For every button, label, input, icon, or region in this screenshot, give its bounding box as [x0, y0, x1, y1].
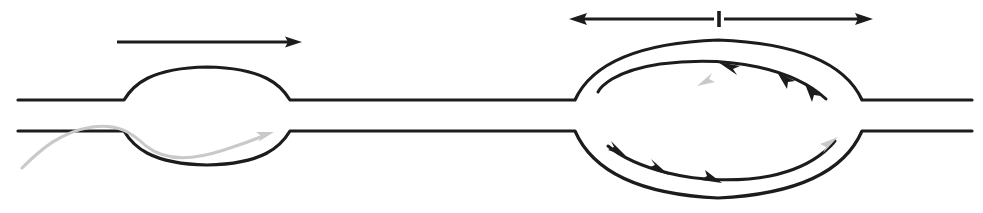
upper-recirculation-head-1 [697, 73, 715, 86]
lower-recirculation-path [608, 141, 835, 180]
lower-recirculation-head-3 [701, 170, 722, 183]
top-wall [18, 40, 972, 100]
channel-bulge-diagram [0, 0, 983, 213]
lower-recirculation-head-4 [820, 137, 838, 153]
lower-recirculation-head-2 [648, 159, 669, 175]
bulge-length-dimension-arrow [569, 11, 873, 27]
figure-canvas: l Converging-diverging channel with two … [0, 0, 983, 213]
inlet-flow-direction-arrow [117, 37, 302, 48]
right-bulge-upper-recirculation [598, 61, 826, 102]
right-bulge-lower-recirculation [608, 137, 838, 183]
